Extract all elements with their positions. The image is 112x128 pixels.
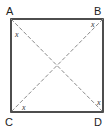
vertex-label-b: B [94, 5, 101, 17]
vertex-label-c: C [5, 116, 13, 128]
angle-mark-d: x [96, 98, 101, 107]
angle-mark-c: x [21, 103, 26, 112]
angle-mark-a: x [14, 30, 19, 39]
vertex-label-d: D [94, 116, 102, 128]
vertex-label-a: A [6, 5, 14, 17]
square-diagram: A B C D x x x x [0, 0, 112, 128]
angle-mark-b: x [90, 20, 95, 29]
